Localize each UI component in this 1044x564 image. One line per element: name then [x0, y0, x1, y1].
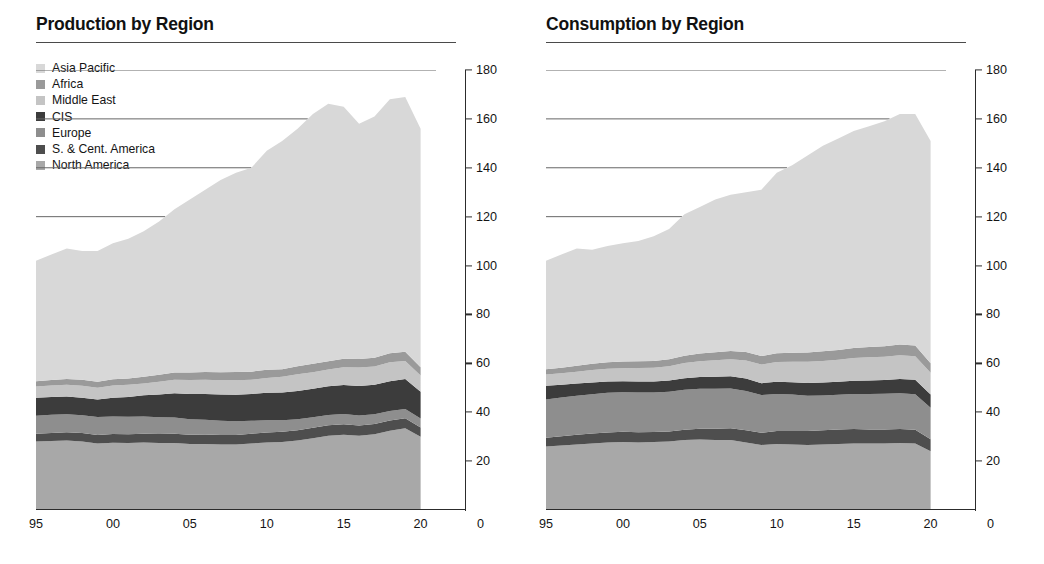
x-axis-tick-label: 05	[693, 517, 707, 531]
y-axis-tick-label: 60	[986, 356, 1000, 370]
y-axis-tick-mark	[465, 167, 472, 168]
x-axis-tick-label: 00	[616, 517, 630, 531]
x-axis-line	[546, 509, 976, 510]
page-title-consumption: Consumption by Region	[546, 14, 744, 35]
y-axis-tick-mark	[975, 363, 982, 364]
y-axis-tick-label: 60	[476, 356, 490, 370]
y-axis-tick-label: 120	[986, 210, 1007, 224]
y-axis-tick-mark	[465, 69, 472, 70]
area-chart-production	[36, 70, 436, 510]
y-axis-tick-mark	[975, 216, 982, 217]
y-axis-tick-label: 180	[476, 63, 497, 77]
x-axis-tick-label: 95	[29, 517, 43, 531]
area-chart-consumption	[546, 70, 946, 510]
y-axis-tick-mark	[465, 265, 472, 266]
x-axis-tick-label: 05	[183, 517, 197, 531]
y-axis-tick-mark	[975, 69, 982, 70]
y-axis-tick-mark	[465, 363, 472, 364]
x-axis-tick-label: 95	[539, 517, 553, 531]
x-axis-tick-label: 10	[770, 517, 784, 531]
y-axis-tick-mark	[465, 461, 472, 462]
y-axis-tick-mark	[975, 461, 982, 462]
title-divider	[36, 42, 456, 43]
y-axis-tick-label: 140	[476, 161, 497, 175]
panel-production: Production by Region Asia PacificAfricaM…	[28, 0, 536, 564]
y-axis-tick-mark	[465, 118, 472, 119]
x-axis-line	[36, 509, 466, 510]
y-axis-tick-label: 80	[476, 307, 490, 321]
y-axis-tick-label: 140	[986, 161, 1007, 175]
y-axis-tick-label: 100	[476, 259, 497, 273]
x-axis-zero-label: 0	[477, 517, 484, 531]
x-axis-tick-label: 15	[337, 517, 351, 531]
area-series	[36, 97, 421, 382]
y-axis-tick-label: 20	[476, 454, 490, 468]
area-series	[546, 114, 931, 369]
x-axis-tick-label: 15	[847, 517, 861, 531]
y-axis-tick-label: 40	[986, 405, 1000, 419]
x-axis-tick-label: 10	[260, 517, 274, 531]
title-divider	[546, 42, 966, 43]
x-axis-tick-label: 20	[414, 517, 428, 531]
plot-area-production	[36, 70, 436, 510]
x-axis-tick-label: 20	[924, 517, 938, 531]
y-axis-tick-mark	[975, 412, 982, 413]
x-axis-tick-label: 00	[106, 517, 120, 531]
y-axis-tick-label: 40	[476, 405, 490, 419]
y-axis-tick-label: 120	[476, 210, 497, 224]
y-axis-tick-label: 180	[986, 63, 1007, 77]
chart-page: Production by Region Asia PacificAfricaM…	[0, 0, 1044, 564]
y-axis-tick-mark	[465, 314, 472, 315]
y-axis-tick-mark	[465, 412, 472, 413]
y-axis-tick-label: 100	[986, 259, 1007, 273]
y-axis-tick-mark	[975, 314, 982, 315]
y-axis-line	[465, 70, 466, 511]
page-title-production: Production by Region	[36, 14, 214, 35]
y-axis-tick-label: 20	[986, 454, 1000, 468]
y-axis-tick-mark	[975, 265, 982, 266]
y-axis-tick-mark	[975, 118, 982, 119]
y-axis-tick-label: 80	[986, 307, 1000, 321]
plot-area-consumption	[546, 70, 946, 510]
y-axis-line	[975, 70, 976, 511]
y-axis-tick-mark	[465, 216, 472, 217]
y-axis-tick-label: 160	[986, 112, 1007, 126]
panel-consumption: Consumption by Region 180160140120100806…	[538, 0, 1044, 564]
y-axis-tick-mark	[975, 167, 982, 168]
area-series	[546, 440, 931, 510]
x-axis-zero-label: 0	[987, 517, 994, 531]
y-axis-tick-label: 160	[476, 112, 497, 126]
